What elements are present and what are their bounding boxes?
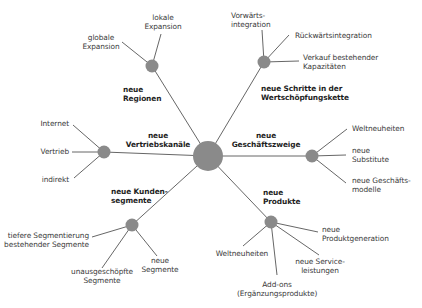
leaf-label-tiefere-segmentierung: tiefere Segmentierung bestehender Segmen… (0, 231, 89, 250)
category-label-line: Regionen (123, 94, 161, 103)
category-label-regionen: neue Regionen (123, 85, 161, 104)
category-label-line: Wertschöpfungskette (261, 93, 349, 102)
leaf-label-line: indirekt (20, 175, 69, 184)
category-label-line: neue (263, 188, 300, 197)
leaf-label-line: globale (78, 33, 124, 42)
leaf-line (312, 129, 347, 156)
hub-node-produkte[interactable] (265, 216, 278, 229)
category-label-line: neue Kunden- (111, 187, 168, 196)
leaf-label-line: Rückwärtsintegration (295, 31, 372, 40)
leaf-label-line: Weltneuheiten (213, 249, 271, 258)
leaf-label-line: Kapazitäten (303, 62, 378, 71)
leaf-label-line: leistungen (290, 266, 350, 275)
leaf-line (312, 156, 346, 183)
leaf-label-add-ons: Add-ons (Ergänzungsprodukte) (237, 280, 317, 299)
leaf-label-indirekt: indirekt (20, 175, 69, 184)
leaf-label-verkauf-kapazitaeten: Verkauf bestehender Kapazitäten (303, 53, 378, 72)
category-label-geschaeftszweige: neue Geschäftszweige (226, 131, 306, 150)
leaf-label-neue-produktgeneration: neue Produktgeneration (322, 225, 389, 244)
leaf-label-vertrieb: Vertrieb (20, 147, 69, 156)
leaf-label-globale-expansion: globale Expansion (78, 33, 124, 52)
leaf-label-line: Vorwärts- (231, 11, 271, 20)
leaf-label-internet: Internet (20, 119, 69, 128)
category-label-vertriebskanaele: neue Vertriebskanäle (118, 131, 198, 150)
category-label-line: Geschäftszweige (226, 140, 306, 149)
leaf-label-line: integration (231, 20, 271, 29)
leaf-label-line: Verkauf bestehender (303, 53, 378, 62)
hub-node-kundensegmente[interactable] (126, 219, 139, 232)
leaf-label-weltneuheiten-produkte: Weltneuheiten (213, 249, 271, 258)
leaf-label-line: Substitute (352, 155, 389, 164)
leaf-line (102, 225, 132, 268)
category-label-line: neue (118, 131, 198, 140)
category-label-line: Produkte (263, 197, 300, 206)
leaf-label-line: bestehender Segmente (0, 240, 89, 249)
leaf-label-neue-geschaeftsmodelle: neue Geschäfts- modelle (352, 176, 411, 195)
leaf-label-line: Segmente (140, 265, 180, 274)
leaf-label-line: Add-ons (237, 280, 317, 289)
hub-node-vertriebskanaele[interactable] (98, 146, 111, 159)
leaf-label-line: Weltneuheiten (352, 124, 404, 133)
leaf-label-line: lokale (140, 13, 186, 22)
category-label-line: segmente (111, 196, 168, 205)
leaf-label-line: neue (140, 256, 180, 265)
leaf-label-line: Segmente (67, 276, 137, 285)
leaf-label-line: (Ergänzungsprodukte) (237, 289, 317, 298)
leaf-label-line: Internet (20, 119, 69, 128)
leaf-label-neue-serviceleistungen: neue Service- leistungen (290, 257, 350, 276)
category-label-line: Vertriebskanäle (118, 140, 198, 149)
leaf-label-weltneuheiten-gz: Weltneuheiten (352, 124, 404, 133)
leaf-label-line: Produktgeneration (322, 234, 389, 243)
hub-node-regionen[interactable] (146, 60, 159, 73)
category-label-kundensegmente: neue Kunden- segmente (111, 187, 168, 206)
leaf-label-line: Expansion (140, 22, 186, 31)
leaf-line (271, 222, 277, 275)
leaf-label-line: modelle (352, 185, 411, 194)
leaf-label-neue-substitute: neue Substitute (352, 146, 389, 165)
category-label-line: neue (123, 85, 161, 94)
spoke-vertriebskanaele (104, 152, 208, 156)
leaf-label-lokale-expansion: lokale Expansion (140, 13, 186, 32)
category-label-produkte: neue Produkte (263, 188, 300, 207)
leaf-label-line: tiefere Segmentierung (0, 231, 89, 240)
leaf-label-line: neue (352, 146, 389, 155)
leaf-label-vorwaertsintegration: Vorwärts- integration (231, 11, 271, 30)
leaf-label-neue-segmente: neue Segmente (140, 256, 180, 275)
leaf-label-line: neue Service- (290, 257, 350, 266)
leaf-label-unausgeschoepfte-segmente: unausgeschöpfte Segmente (67, 267, 137, 286)
leaf-label-line: neue Geschäfts- (352, 176, 411, 185)
leaf-label-line: unausgeschöpfte (67, 267, 137, 276)
category-label-line: neue Schritte in der (261, 84, 349, 93)
category-label-line: neue (226, 131, 306, 140)
leaf-label-line: Vertrieb (20, 147, 69, 156)
hub-node-geschaeftszweige[interactable] (306, 150, 319, 163)
leaf-label-line: neue (322, 225, 389, 234)
leaf-label-line: Expansion (78, 42, 124, 51)
leaf-label-rueckwaertsintegration: Rückwärtsintegration (295, 31, 372, 40)
hub-node-wertschoepfung[interactable] (258, 56, 271, 69)
category-label-wertschoepfung: neue Schritte in der Wertschöpfungskette (261, 84, 349, 103)
